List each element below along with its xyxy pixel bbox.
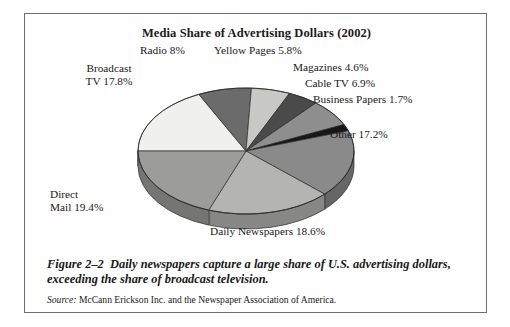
figure-number: Figure 2–2 [47,257,104,271]
slice-label-cable-tv: Cable TV 6.9% [305,77,375,90]
figure-frame: Media Share of Advertising Dollars (2002… [24,13,487,313]
slice-label-business-papers: Business Papers 1.7% [313,93,412,106]
figure-caption: Figure 2–2 Daily newspapers capture a la… [47,257,471,288]
slice-label-magazines: Magazines 4.6% [293,61,368,74]
slice-label-direct-mail-line2: Mail 19.4% [50,201,103,213]
slice-label-other: Other 17.2% [330,128,388,141]
slice-label-broadcast-tv: Broadcast TV 17.8% [54,62,164,88]
slice-label-radio: Radio 8% [140,44,185,57]
source-label: Source: [47,294,76,305]
pie-chart: Radio 8% Yellow Pages 5.8% Magazines 4.6… [25,14,488,246]
source-line: Source: McCann Erickson Inc. and the New… [47,294,471,306]
slice-label-daily-newspapers: Daily Newspapers 18.6% [210,225,325,238]
slice-label-direct-mail-line1: Direct [50,188,78,200]
source-text: McCann Erickson Inc. and the Newspaper A… [79,294,336,305]
slice-label-broadcast-tv-line1: Broadcast [86,62,131,74]
slice-label-broadcast-tv-line2: TV 17.8% [86,75,133,87]
slice-label-direct-mail: Direct Mail 19.4% [50,188,146,214]
caption-block: Figure 2–2 Daily newspapers capture a la… [47,257,471,306]
figure-caption-text: Daily newspapers capture a large share o… [47,257,451,286]
slice-label-yellow-pages: Yellow Pages 5.8% [214,44,302,57]
